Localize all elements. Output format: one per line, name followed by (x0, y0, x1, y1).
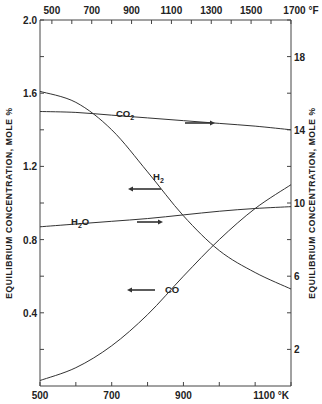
curves (40, 91, 291, 380)
h2o-arrow-right-icon (137, 220, 163, 225)
top-tick-label: 1100 (161, 5, 183, 16)
co-label: CO (165, 284, 179, 295)
co-arrow-left-icon (127, 288, 155, 293)
left-tick-label: 0.8 (23, 235, 37, 246)
top-tick-label: 1300 (200, 5, 223, 16)
top-tick-label: 700 (83, 5, 100, 16)
h2o-label: H2O (71, 216, 89, 229)
bottom-axis-ticks: 5007009001100 °K (32, 382, 291, 401)
left-tick-label: 1.2 (23, 161, 37, 172)
h2-arrow-left-icon (128, 187, 161, 192)
co2-label: CO2 (116, 108, 134, 121)
left-tick-label: 1.6 (23, 88, 37, 99)
left-axis-title: EQUILIBRIUM CONCENTRATION, MOLE % (4, 107, 14, 299)
bottom-tick-label: 900 (175, 390, 192, 401)
bottom-tick-label: 700 (103, 390, 120, 401)
top-tick-label: 900 (123, 5, 140, 16)
top-tick-label: 500 (44, 5, 61, 16)
top-axis-ticks: 5007009001100130015001700 °F (44, 5, 319, 24)
right-tick-label: 10 (294, 198, 306, 209)
left-axis-ticks: 2.01.61.20.80.4 (23, 15, 44, 349)
top-tick-label: 1700 °F (283, 5, 318, 16)
right-tick-label: 6 (294, 271, 300, 282)
right-tick-label: 2 (294, 344, 300, 355)
bottom-tick-label: 1100 °K (253, 390, 289, 401)
right-axis-title: EQUILIBRIUM CONCENTRATION, MOLE % (307, 107, 317, 299)
co2-curve (40, 112, 291, 130)
h2-label: H2 (153, 171, 164, 184)
h2-curve (40, 91, 291, 289)
co-curve (40, 185, 291, 381)
right-tick-label: 14 (294, 125, 306, 136)
top-tick-label: 1500 (240, 5, 263, 16)
left-tick-label: 2.0 (23, 15, 37, 26)
equilibrium-chart: 5007009001100130015001700 °F 50070090011… (0, 0, 322, 404)
right-tick-label: 18 (294, 52, 306, 63)
plot-frame (40, 20, 291, 386)
right-axis-ticks: 18141062 (287, 20, 306, 355)
bottom-tick-label: 500 (32, 390, 49, 401)
left-tick-label: 0.4 (23, 308, 37, 319)
